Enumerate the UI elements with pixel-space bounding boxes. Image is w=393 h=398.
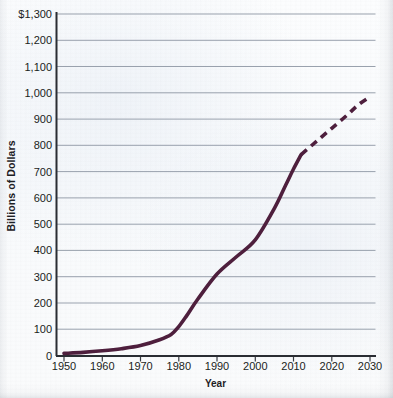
x-axis-tickmarks: [64, 357, 370, 362]
gridlines-group: [57, 14, 376, 356]
chart-plot-area: [0, 0, 393, 398]
series-line-actual: [64, 155, 301, 354]
series-line-projected: [301, 97, 370, 155]
chart-figure: 01002003004005006007008009001,0001,1001,…: [0, 0, 393, 398]
